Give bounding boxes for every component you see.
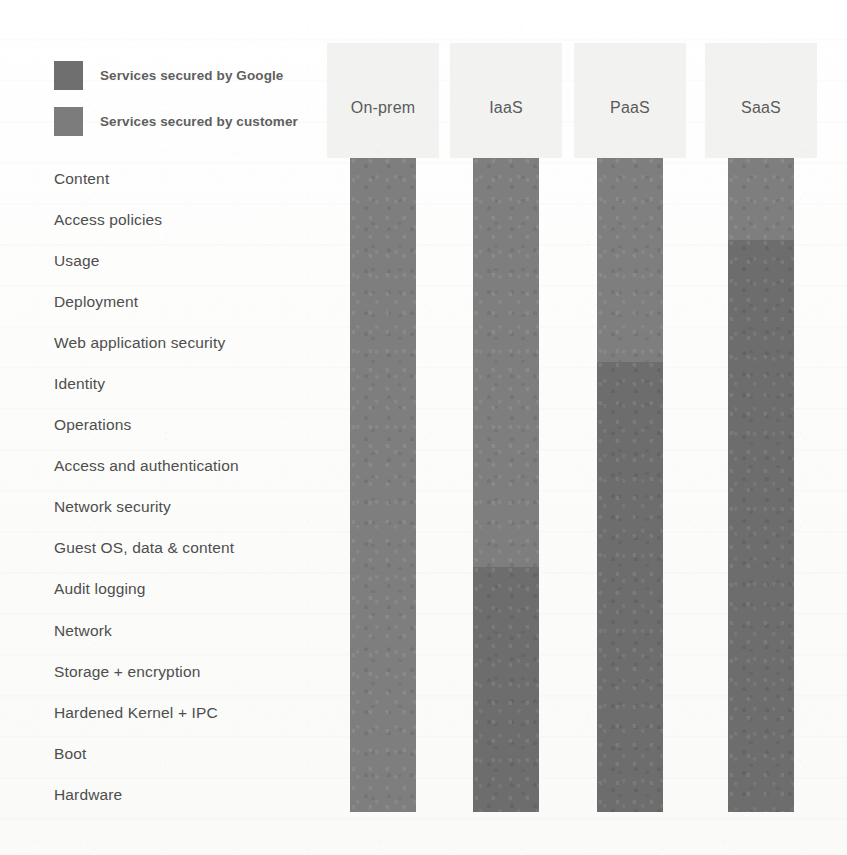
bar-segment-customer [350,158,416,812]
bar-segment-customer [473,158,539,567]
chart-page: Services secured by Google Services secu… [0,0,847,855]
column-header-panel: SaaS [705,43,817,158]
bar-segment-google [728,240,794,812]
bar-segment-google [597,362,663,812]
column-header-panel: IaaS [450,43,562,158]
bar-segment-customer [728,158,794,240]
stacked-bar [473,158,539,812]
stacked-bar [350,158,416,812]
bar-segment-customer [597,158,663,362]
stacked-bar [728,158,794,812]
column-header-label: On-prem [327,99,439,117]
stacked-bar [597,158,663,812]
bar-segment-google [473,567,539,812]
column-header-panel: PaaS [574,43,686,158]
column-header-label: SaaS [705,99,817,117]
stacked-bar-columns: On-premIaaSPaaSSaaS [0,0,847,855]
column-header-label: PaaS [574,99,686,117]
column-header-panel: On-prem [327,43,439,158]
column-header-label: IaaS [450,99,562,117]
